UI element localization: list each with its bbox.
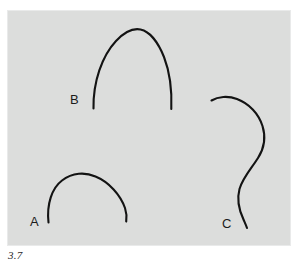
figure-caption: 3.7	[8, 249, 22, 262]
curve-c-label: C	[222, 216, 231, 231]
curve-c-path	[212, 97, 265, 228]
figure-container: A B C 3.7	[0, 0, 299, 270]
curve-group-b: B	[70, 29, 171, 109]
curve-a-label: A	[30, 214, 39, 229]
curve-group-c: C	[212, 97, 265, 231]
curves-canvas: A B C	[0, 0, 299, 270]
curve-group-a: A	[30, 174, 126, 229]
curve-b-path	[93, 29, 171, 109]
curve-b-label: B	[70, 92, 79, 107]
curve-a-path	[48, 174, 126, 223]
